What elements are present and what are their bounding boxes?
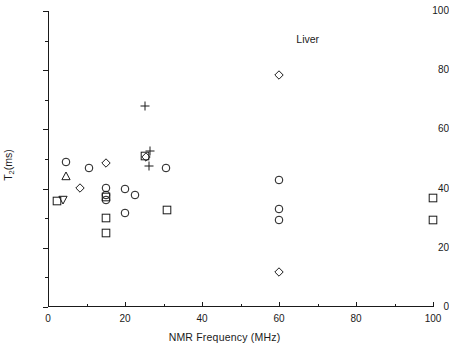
data-point-plus [144, 161, 153, 170]
x-minor-tick-30 [164, 304, 165, 307]
x-tick-label-80: 80 [350, 314, 361, 324]
data-point-circle [275, 205, 284, 214]
y-tick-40 [43, 189, 48, 190]
y-tick-20 [43, 248, 48, 249]
x-minor-tick-10 [87, 304, 88, 307]
data-point-circle [121, 185, 130, 194]
y-minor-tick-10 [45, 277, 48, 278]
y-axis-label-subscript: 2 [7, 170, 16, 174]
data-point-square [163, 205, 172, 214]
x-tick-0 [48, 302, 49, 307]
series-annotation-liver: Liver [296, 33, 319, 45]
data-point-circle [121, 209, 130, 218]
data-point-square [429, 193, 438, 202]
y-tick-60 [43, 129, 48, 130]
data-point-square [101, 229, 110, 238]
y-axis-label-unit: (ms) [2, 149, 14, 170]
data-point-square [101, 193, 110, 202]
x-tick-20 [125, 302, 126, 307]
x-tick-label-40: 40 [196, 314, 207, 324]
data-point-circle [85, 164, 94, 173]
y-axis-line [48, 11, 49, 307]
data-point-plus [145, 147, 154, 156]
data-point-circle [101, 191, 110, 200]
data-point-triangle-down [59, 195, 68, 204]
y-tick-100 [43, 11, 48, 12]
x-minor-tick-90 [395, 304, 396, 307]
y-tick-80 [43, 70, 48, 71]
x-minor-tick-50 [241, 304, 242, 307]
x-minor-tick-70 [318, 304, 319, 307]
data-point-square [101, 214, 110, 223]
scatter-plot-figure: Liver 020406080100 020406080100 T2(ms) N… [0, 0, 449, 356]
x-tick-label-0: 0 [45, 314, 51, 324]
data-point-diamond [101, 158, 110, 167]
x-tick-40 [202, 302, 203, 307]
data-point-diamond [142, 153, 151, 162]
plot-area: Liver [48, 11, 433, 307]
y-tick-label-100: 100 [410, 6, 449, 16]
y-minor-tick-90 [45, 41, 48, 42]
y-tick-0 [43, 307, 48, 308]
data-point-circle [101, 184, 110, 193]
data-point-circle [101, 195, 110, 204]
x-axis-label: NMR Frequency (MHz) [0, 331, 449, 343]
y-tick-label-40: 40 [410, 184, 449, 194]
data-point-circle [275, 215, 284, 224]
x-tick-80 [356, 302, 357, 307]
data-point-square [52, 197, 61, 206]
data-point-square [141, 152, 150, 161]
y-tick-label-80: 80 [410, 65, 449, 75]
data-point-diamond [75, 184, 84, 193]
data-point-diamond [275, 268, 284, 277]
data-point-square [429, 215, 438, 224]
data-point-circle [161, 164, 170, 173]
data-point-triangle-up [62, 172, 71, 181]
y-minor-tick-70 [45, 100, 48, 101]
x-tick-label-20: 20 [119, 314, 130, 324]
x-tick-label-60: 60 [273, 314, 284, 324]
data-point-circle [62, 158, 71, 167]
data-point-circle [275, 176, 284, 185]
x-tick-60 [279, 302, 280, 307]
x-tick-label-100: 100 [425, 314, 442, 324]
y-axis-label: T2(ms) [2, 130, 16, 200]
y-minor-tick-50 [45, 159, 48, 160]
data-point-diamond [275, 71, 284, 80]
data-point-circle [130, 191, 139, 200]
data-point-plus [141, 101, 150, 110]
y-tick-label-20: 20 [410, 243, 449, 253]
y-tick-label-60: 60 [410, 124, 449, 134]
y-tick-label-0: 0 [410, 302, 449, 312]
y-minor-tick-30 [45, 218, 48, 219]
y-axis-label-base: T [2, 174, 14, 180]
